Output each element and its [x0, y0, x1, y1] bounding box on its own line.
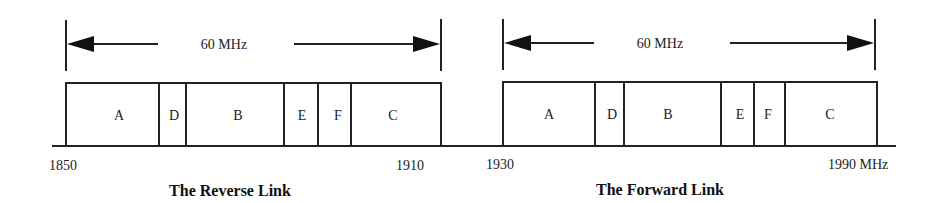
forward-link-group — [503, 19, 877, 146]
reverse-block-d: D — [169, 109, 179, 123]
forward-link-title: The Forward Link — [596, 182, 724, 198]
reverse-start-frequency: 1850 — [49, 159, 77, 173]
forward-band-box — [503, 82, 877, 146]
reverse-link-title: The Reverse Link — [169, 183, 291, 199]
forward-block-e: E — [736, 108, 745, 122]
reverse-block-a: A — [114, 109, 124, 123]
reverse-block-e: E — [298, 109, 307, 123]
forward-block-f: F — [764, 108, 772, 122]
reverse-block-c: C — [388, 109, 397, 123]
forward-span-label: 60 MHz — [637, 37, 683, 51]
forward-arrow-right-head-icon — [847, 35, 874, 51]
forward-block-c: C — [825, 108, 834, 122]
forward-block-d: D — [607, 108, 617, 122]
forward-block-b: B — [663, 108, 672, 122]
forward-arrow-left-head-icon — [504, 35, 531, 51]
forward-end-frequency: 1990 MHz — [828, 158, 888, 172]
reverse-block-b: B — [233, 109, 242, 123]
reverse-end-frequency: 1910 — [396, 159, 424, 173]
reverse-arrow-left-head-icon — [67, 36, 94, 52]
reverse-span-label: 60 MHz — [201, 38, 247, 52]
reverse-link-group — [66, 19, 441, 146]
reverse-block-f: F — [334, 109, 342, 123]
forward-block-a: A — [544, 108, 554, 122]
frequency-diagram — [0, 0, 933, 203]
forward-start-frequency: 1930 — [486, 158, 514, 172]
reverse-arrow-right-head-icon — [413, 36, 440, 52]
